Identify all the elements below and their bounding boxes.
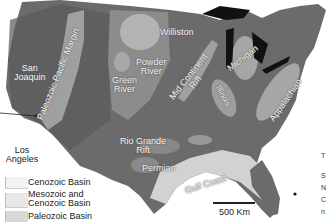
swatch-paleozoic (5, 211, 28, 222)
williston-basin (120, 14, 160, 50)
label-los-angeles: LosAngeles (0, 146, 44, 164)
label-rio-grande-rift: Rio GrandeRift (120, 137, 166, 155)
map-legend: Cenozoic Basin Mesozoic and Cenozoic Bas… (0, 176, 130, 222)
cropped-text-s: S (321, 172, 326, 179)
scale-label: 500 Km (219, 207, 255, 217)
legend-item-cenozoic: Cenozoic Basin (0, 176, 130, 190)
label-williston: Williston (160, 28, 194, 37)
legend-item-paleozoic: Paleozoic Basin (0, 210, 130, 222)
scale-bar: 500 Km (213, 202, 255, 217)
label-san-joaquin: SanJoaquin (14, 64, 46, 82)
legend-item-mesozoic-cenozoic: Mesozoic and Cenozoic Basin (0, 190, 130, 210)
cropped-text-n2: n (321, 208, 325, 215)
cropped-text-c: C (321, 196, 326, 203)
label-green-river: GreenRiver (112, 76, 137, 94)
label-powder-river: PowderRiver (136, 58, 167, 76)
scale-line (213, 202, 255, 204)
label-permian: Permian (142, 164, 176, 173)
swatch-cenozoic (5, 177, 28, 189)
swatch-mesozoic-cenozoic (5, 193, 28, 208)
cropped-text-n: N (321, 184, 326, 191)
cropped-text-t: T (321, 152, 325, 159)
